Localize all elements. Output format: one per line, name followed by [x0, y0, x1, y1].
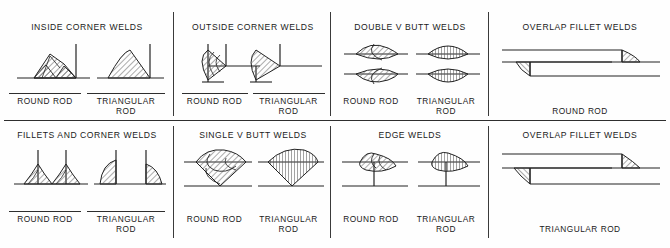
- column-divider-5: [330, 126, 331, 238]
- caption-line-2: ROD: [436, 106, 456, 116]
- caption-round-rod: ROUND ROD: [9, 211, 81, 234]
- caption-triangular-rod: TRIANGULAR ROD: [409, 94, 483, 116]
- weld-figure-fillets-corner: [4, 140, 170, 211]
- cell-title: OVERLAP FILLET WELDS: [523, 22, 638, 32]
- column-divider-1: [173, 12, 174, 116]
- caption-line-2: ROD: [116, 224, 136, 234]
- cell-title: FILLETS AND CORNER WELDS: [17, 130, 157, 140]
- caption-round-rod: ROUND ROD: [182, 93, 248, 116]
- weld-figure-single-v-butt: [180, 140, 326, 212]
- caption-line-1: TRIANGULAR: [97, 214, 155, 224]
- caption-line-2: ROD: [279, 106, 299, 116]
- weld-figure-overlap-fillet-round: [494, 32, 666, 106]
- weld-figure-overlap-fillet-triangular: [494, 140, 666, 224]
- cell-single-v-butt-welds: SINGLE V BUTT WELDS ROUND ROD TRIANGULAR…: [180, 130, 326, 234]
- caption-round-rod: ROUND ROD: [337, 94, 405, 116]
- caption-line-2: ROD: [116, 106, 136, 116]
- cell-title: SINGLE V BUTT WELDS: [199, 130, 307, 140]
- column-divider-6: [488, 126, 489, 238]
- cell-inside-corner-welds: INSIDE CORNER WELDS ROUND ROD TRIANGULAR…: [4, 22, 170, 116]
- cell-title: EDGE WELDS: [379, 130, 442, 140]
- cell-outside-corner-welds: OUTSIDE CORNER WELDS ROUND ROD: [180, 22, 326, 116]
- caption-line-2: ROD: [279, 224, 299, 234]
- caption-line-1: TRIANGULAR: [259, 214, 317, 224]
- column-divider-4: [173, 126, 174, 238]
- cell-fillets-and-corner-welds: FILLETS AND CORNER WELDS ROUND ROD: [4, 130, 170, 234]
- caption-line-1: TRIANGULAR: [417, 96, 475, 106]
- caption-row: ROUND ROD TRIANGULAR ROD: [180, 212, 326, 234]
- caption-line-1: TRIANGULAR: [417, 214, 475, 224]
- cell-title: DOUBLE V BUTT WELDS: [354, 22, 466, 32]
- caption-line-2: ROD: [436, 224, 456, 234]
- caption-triangular-rod: TRIANGULAR ROD: [87, 93, 165, 116]
- caption-triangular-rod: TRIANGULAR ROD: [87, 211, 165, 234]
- caption-triangular-rod: TRIANGULAR ROD: [494, 224, 666, 234]
- row-divider: [4, 120, 666, 121]
- caption-triangular-rod: TRIANGULAR ROD: [253, 212, 325, 234]
- caption-line-1: TRIANGULAR: [97, 96, 155, 106]
- caption-row: ROUND ROD TRIANGULAR ROD: [4, 211, 170, 234]
- column-divider-2: [330, 12, 331, 116]
- cell-double-v-butt-welds: DOUBLE V BUTT WELDS ROUND ROD TRIANGULAR: [336, 22, 484, 116]
- caption-row: ROUND ROD TRIANGULAR ROD: [4, 93, 170, 116]
- cell-edge-welds: EDGE WELDS ROUND ROD TRIANGULAR RO: [336, 130, 484, 234]
- caption-round-rod: ROUND ROD: [182, 212, 248, 234]
- cell-overlap-fillet-welds-round: OVERLAP FILLET WELDS ROUND ROD: [494, 22, 666, 116]
- cell-title: INSIDE CORNER WELDS: [31, 22, 143, 32]
- cell-title: OUTSIDE CORNER WELDS: [192, 22, 314, 32]
- caption-row: ROUND ROD TRIANGULAR ROD: [336, 94, 484, 116]
- weld-figure-edge-welds: [336, 140, 484, 212]
- caption-line-1: TRIANGULAR: [259, 96, 317, 106]
- caption-row: ROUND ROD TRIANGULAR ROD: [336, 212, 484, 234]
- weld-figure-double-v-butt: [336, 32, 484, 94]
- caption-triangular-rod: TRIANGULAR ROD: [253, 93, 325, 116]
- cell-overlap-fillet-welds-triangular: OVERLAP FILLET WELDS TRIANGULAR ROD: [494, 130, 666, 234]
- caption-round-rod: ROUND ROD: [494, 106, 666, 116]
- column-divider-3: [488, 12, 489, 116]
- cell-title: OVERLAP FILLET WELDS: [523, 130, 638, 140]
- caption-round-rod: ROUND ROD: [9, 93, 81, 116]
- weld-chart-sheet: INSIDE CORNER WELDS ROUND ROD TRIANGULAR…: [0, 0, 670, 248]
- caption-round-rod: ROUND ROD: [337, 212, 405, 234]
- caption-triangular-rod: TRIANGULAR ROD: [409, 212, 483, 234]
- caption-row: ROUND ROD TRIANGULAR ROD: [180, 93, 326, 116]
- weld-figure-outside-corner: [180, 32, 326, 93]
- weld-figure-inside-corner: [4, 32, 170, 93]
